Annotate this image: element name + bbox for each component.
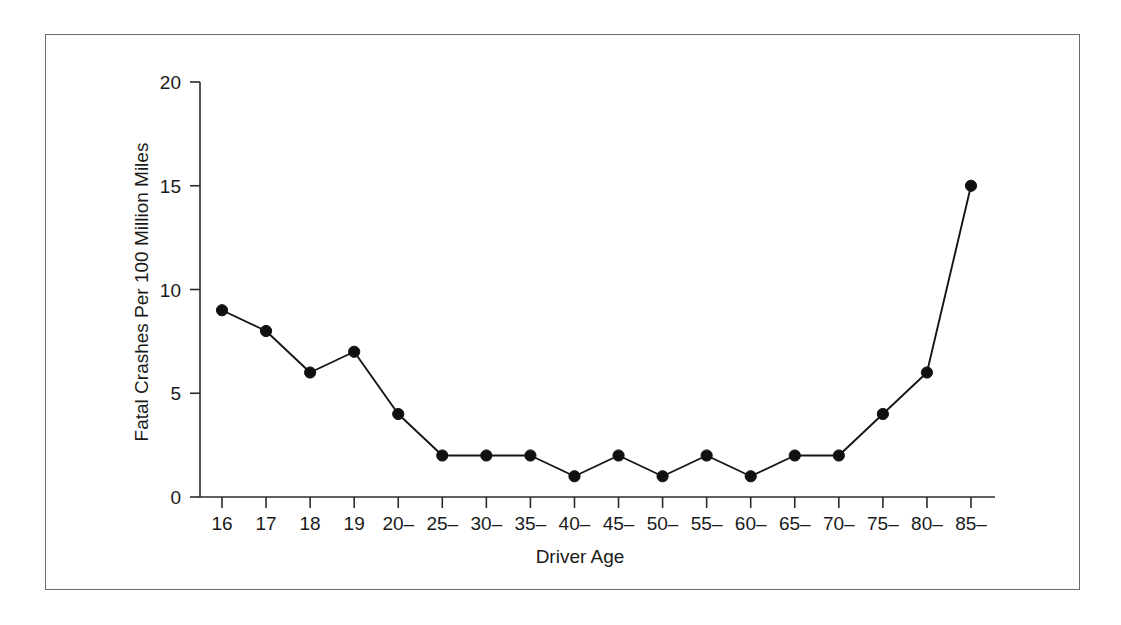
data-point — [745, 471, 756, 482]
y-axis: 05101520 — [160, 72, 200, 508]
x-tick-label: 17 — [255, 513, 276, 534]
y-tick-label: 15 — [160, 176, 181, 197]
data-point — [216, 305, 227, 316]
y-tick-label: 10 — [160, 280, 181, 301]
x-tick-label: 65– — [779, 513, 811, 534]
x-tick-label: 20– — [382, 513, 414, 534]
y-tick-label: 0 — [170, 487, 181, 508]
x-axis: 1617181920–25–30–35–40–45–50–55–60–65–70… — [200, 497, 995, 534]
x-tick-label: 45– — [603, 513, 635, 534]
data-point — [789, 450, 800, 461]
y-axis-title: Fatal Crashes Per 100 Million Miles — [131, 143, 152, 442]
data-point — [525, 450, 536, 461]
data-point — [481, 450, 492, 461]
figure-container: 05101520 1617181920–25–30–35–40–45–50–55… — [0, 0, 1121, 625]
data-point — [393, 408, 404, 419]
x-tick-label: 50– — [647, 513, 679, 534]
x-tick-label: 18 — [300, 513, 321, 534]
x-tick-label: 30– — [471, 513, 503, 534]
data-series — [216, 180, 976, 482]
x-tick-label: 19 — [344, 513, 365, 534]
data-point — [657, 471, 668, 482]
data-point — [613, 450, 624, 461]
data-point — [349, 346, 360, 357]
data-point — [437, 450, 448, 461]
data-point — [877, 408, 888, 419]
y-tick-label: 20 — [160, 72, 181, 93]
x-tick-label: 25– — [426, 513, 458, 534]
x-tick-label: 75– — [867, 513, 899, 534]
data-point — [701, 450, 712, 461]
x-tick-label: 55– — [691, 513, 723, 534]
data-point — [921, 367, 932, 378]
x-tick-label: 40– — [559, 513, 591, 534]
x-axis-title: Driver Age — [536, 546, 625, 567]
series-polyline — [222, 186, 971, 477]
x-tick-label: 35– — [515, 513, 547, 534]
data-point — [965, 180, 976, 191]
line-chart: 05101520 1617181920–25–30–35–40–45–50–55… — [0, 0, 1121, 625]
x-tick-label: 60– — [735, 513, 767, 534]
x-tick-label: 70– — [823, 513, 855, 534]
x-tick-label: 85– — [955, 513, 987, 534]
x-tick-label: 80– — [911, 513, 943, 534]
y-tick-label: 5 — [170, 383, 181, 404]
data-point — [260, 325, 271, 336]
data-point — [305, 367, 316, 378]
x-tick-label: 16 — [211, 513, 232, 534]
data-point — [569, 471, 580, 482]
data-point — [833, 450, 844, 461]
